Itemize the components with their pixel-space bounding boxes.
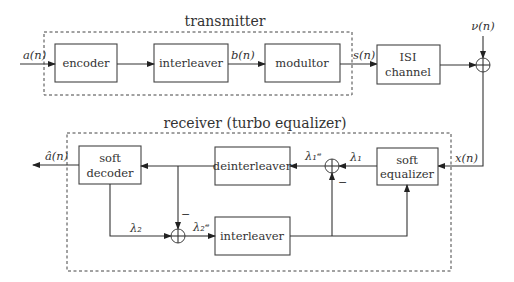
deinterleaver-block: deinterleaver: [213, 147, 292, 185]
minus-sign-2: −: [181, 208, 190, 221]
minus-sign-1: −: [338, 176, 347, 189]
extrinsic1-sum-junction: [325, 159, 339, 173]
noise-sum-junction: [476, 58, 490, 72]
lambda2-label: λ₂: [129, 221, 142, 235]
soft-decoder-label-2: decoder: [86, 166, 134, 180]
receiver-title: receiver (turbo equalizer): [164, 115, 347, 131]
lambda2e-label: λ₂ᵉ: [192, 220, 210, 234]
interleaver-to-equalizer-path: [290, 185, 407, 236]
x-signal-label: x(n): [455, 151, 478, 165]
soft-decoder-block: soft decoder: [79, 146, 141, 184]
deinterleaver-label: deinterleaver: [213, 159, 292, 173]
soft-equalizer-label-1: soft: [396, 153, 418, 167]
soft-equalizer-block: soft equalizer: [377, 148, 438, 185]
tx-interleaver-block: interleaver: [154, 44, 228, 82]
b-signal-label: b(n): [231, 48, 255, 62]
soft-equalizer-label-2: equalizer: [380, 167, 435, 181]
modulator-label: modultor: [275, 56, 329, 70]
extrinsic2-sum-junction: [171, 229, 185, 243]
modulator-block: modultor: [265, 44, 340, 82]
encoder-block: encoder: [55, 44, 117, 82]
isi-channel-label-2: channel: [385, 65, 431, 79]
transmitter-title: transmitter: [185, 13, 266, 29]
estimate-label: â(n): [45, 149, 68, 163]
encoder-label: encoder: [62, 56, 110, 70]
lambda1e-label: λ₁ᵉ: [304, 149, 322, 163]
rx-interleaver-block: interleaver: [215, 217, 290, 255]
rx-interleaver-label: interleaver: [220, 229, 285, 243]
isi-channel-block: ISI channel: [377, 45, 440, 84]
tx-interleaver-label: interleaver: [159, 56, 224, 70]
s-signal-label: s(n): [353, 48, 375, 62]
soft-decoder-label-1: soft: [99, 151, 121, 165]
isi-channel-label-1: ISI: [400, 50, 417, 64]
diagram-canvas: transmitter encoder interleaver modultor…: [0, 0, 514, 282]
lambda1-label: λ₁: [349, 150, 362, 164]
noise-label: ν(n): [471, 19, 494, 33]
input-signal-label: a(n): [23, 48, 46, 62]
